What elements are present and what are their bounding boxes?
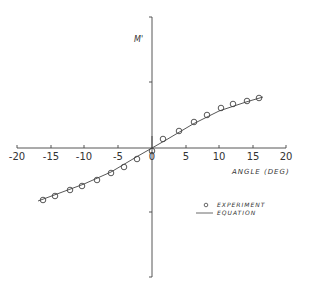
tick-label: 15	[247, 151, 260, 162]
legend: EXPERIMENT EQUATION	[196, 201, 266, 216]
tick-label: 5	[183, 151, 189, 162]
x-axis-title: ANGLE (DEG)	[231, 168, 290, 176]
axes	[17, 17, 286, 277]
tick-label: -5	[113, 151, 123, 162]
legend-equation-label: EQUATION	[217, 209, 256, 216]
chart: -20 -15 -10 -5 0 5 10 15 20 M' ANGLE (DE…	[0, 0, 311, 293]
legend-experiment-label: EXPERIMENT	[217, 201, 266, 208]
tick-label: -15	[43, 151, 59, 162]
tick-label: -20	[9, 151, 25, 162]
y-axis-title: M'	[134, 35, 143, 44]
x-tick-labels: -20 -15 -10 -5 0 5 10 15 20	[9, 151, 293, 162]
tick-label: 20	[280, 151, 293, 162]
tick-label: 10	[213, 151, 226, 162]
legend-circle-icon	[204, 203, 208, 207]
tick-label: -10	[76, 151, 92, 162]
